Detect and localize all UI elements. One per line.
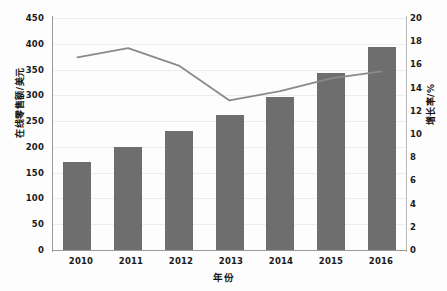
ytick-right-10: 0 bbox=[410, 245, 440, 255]
ytick-right-0: 20 bbox=[410, 13, 440, 23]
ytick-left-8: 50 bbox=[6, 219, 44, 229]
ytick-left-6: 150 bbox=[6, 168, 44, 178]
x-axis-line bbox=[52, 250, 407, 251]
ytick-right-8: 4 bbox=[410, 199, 440, 209]
ytick-left-7: 100 bbox=[6, 193, 44, 203]
chart-container: 450 400 350 300 250 200 150 100 50 0 20 … bbox=[0, 0, 447, 291]
y-axis-right-line bbox=[406, 16, 407, 252]
y-axis-left-line bbox=[52, 16, 53, 252]
y-axis-right-title: 增长率/% bbox=[424, 45, 437, 165]
y-axis-left-title: 在线零售额/美元 bbox=[13, 38, 26, 168]
growth-rate-line bbox=[52, 18, 407, 250]
line-layer bbox=[52, 18, 407, 250]
ytick-right-7: 6 bbox=[410, 175, 440, 185]
ytick-left-9: 0 bbox=[6, 245, 44, 255]
xtick-2016: 2016 bbox=[351, 256, 411, 266]
x-axis-title: 年份 bbox=[0, 270, 447, 284]
ytick-left-0: 450 bbox=[6, 13, 44, 23]
ytick-right-9: 2 bbox=[410, 222, 440, 232]
